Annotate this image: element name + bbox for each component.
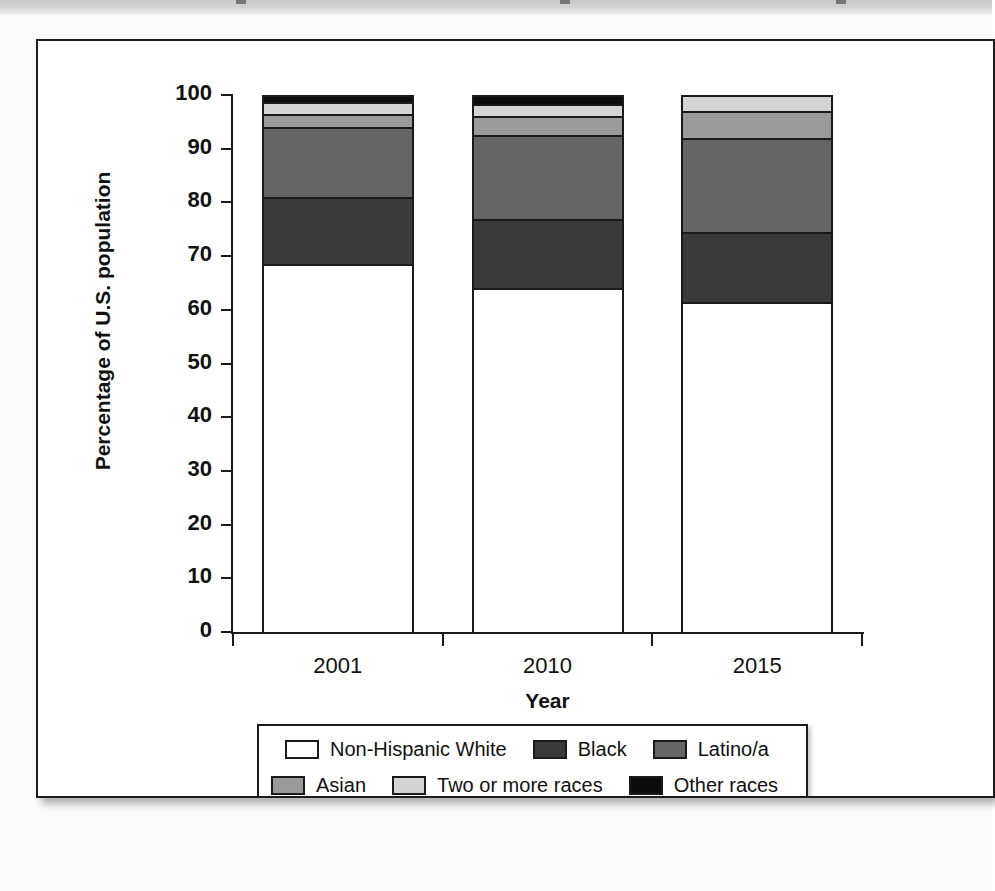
y-axis-tick — [221, 309, 232, 311]
bar-segment-non-hispanic-white[interactable] — [474, 288, 622, 632]
bar-segment-latino-a[interactable] — [683, 138, 831, 232]
bar-segment-asian[interactable] — [264, 114, 412, 127]
y-axis-tick-label-text: 40 — [188, 402, 212, 428]
bar-segment-other-races[interactable] — [474, 95, 622, 104]
y-axis-tick — [221, 631, 232, 633]
y-axis-tick-label-text: 90 — [188, 134, 212, 160]
legend-swatch-icon — [629, 776, 663, 795]
bar-2010[interactable] — [472, 95, 624, 632]
y-axis-title: Percentage of U.S. population — [91, 151, 115, 491]
scan-top-band — [0, 0, 992, 15]
bar-segment-two-or-more-races[interactable] — [683, 95, 831, 111]
y-axis-tick — [221, 363, 232, 365]
legend-item-black[interactable]: Black — [533, 738, 653, 761]
legend-label: Black — [578, 738, 627, 761]
bar-segment-asian[interactable] — [683, 111, 831, 138]
scan-artifact-mark — [236, 0, 246, 4]
y-axis-tick — [221, 470, 232, 472]
bar-segment-latino-a[interactable] — [474, 135, 622, 218]
legend-item-non-hispanic-white[interactable]: Non-Hispanic White — [285, 738, 533, 761]
x-axis-tick — [232, 634, 234, 646]
y-axis-tick — [221, 94, 232, 96]
legend-label: Other races — [674, 774, 778, 797]
y-axis-tick-label-text: 100 — [175, 80, 212, 106]
legend-row: AsianTwo or more racesOther races — [259, 767, 818, 798]
legend-item-other-races[interactable]: Other races — [629, 774, 804, 797]
bar-segment-black[interactable] — [683, 232, 831, 302]
x-axis-title: Year — [231, 689, 864, 713]
legend-label: Non-Hispanic White — [330, 738, 507, 761]
bar-segment-other-races[interactable] — [264, 95, 412, 102]
bar-segment-two-or-more-races[interactable] — [474, 104, 622, 116]
y-axis-tick-label-text: 30 — [188, 456, 212, 482]
x-axis-tick — [651, 634, 653, 646]
y-axis-tick — [221, 577, 232, 579]
y-axis-tick-label-text: 60 — [188, 295, 212, 321]
legend-item-asian[interactable]: Asian — [271, 774, 392, 797]
legend-swatch-icon — [533, 740, 567, 759]
scan-artifact-mark — [836, 0, 846, 4]
y-axis-tick-label-text: 80 — [188, 187, 212, 213]
y-axis-tick — [221, 416, 232, 418]
y-axis-tick — [221, 148, 232, 150]
bar-segment-non-hispanic-white[interactable] — [264, 264, 412, 632]
legend-swatch-icon — [285, 740, 319, 759]
legend-swatch-icon — [392, 776, 426, 795]
legend-swatch-icon — [271, 776, 305, 795]
legend-item-latino-a[interactable]: Latino/a — [653, 738, 795, 761]
x-axis-tick — [442, 634, 444, 646]
y-axis-tick-label-text: 70 — [188, 241, 212, 267]
bar-segment-black[interactable] — [264, 197, 412, 264]
y-axis-tick-label-text: 10 — [188, 563, 212, 589]
x-axis-tick-label-2001: 2001 — [258, 653, 418, 679]
bar-segment-non-hispanic-white[interactable] — [683, 302, 831, 632]
legend-label: Two or more races — [437, 774, 603, 797]
plot-area — [233, 95, 862, 632]
y-axis-tick — [221, 255, 232, 257]
legend-row: Non-Hispanic WhiteBlackLatino/a — [259, 731, 832, 767]
bar-2015[interactable] — [681, 95, 833, 632]
x-axis-tick — [861, 634, 863, 646]
legend-swatch-icon — [653, 740, 687, 759]
bar-segment-latino-a[interactable] — [264, 127, 412, 197]
bar-segment-asian[interactable] — [474, 116, 622, 135]
x-axis-tick-label-2015: 2015 — [677, 653, 837, 679]
bar-segment-black[interactable] — [474, 219, 622, 289]
scan-artifact-mark — [560, 0, 570, 4]
figure-frame: 1009080706050403020100 Percentage of U.S… — [36, 39, 995, 798]
x-axis-line — [231, 632, 864, 634]
chart-legend: Non-Hispanic WhiteBlackLatino/a AsianTwo… — [257, 724, 808, 798]
y-axis-tick-label-text: 0 — [200, 617, 212, 643]
legend-item-two-or-more-races[interactable]: Two or more races — [392, 774, 629, 797]
y-axis-tick — [221, 201, 232, 203]
x-axis-tick-label-2010: 2010 — [468, 653, 628, 679]
y-axis-tick-label-text: 50 — [188, 349, 212, 375]
y-axis-tick-label-text: 20 — [188, 510, 212, 536]
bar-2001[interactable] — [262, 95, 414, 632]
legend-label: Latino/a — [698, 738, 769, 761]
y-axis-tick — [221, 524, 232, 526]
bar-segment-two-or-more-races[interactable] — [264, 102, 412, 114]
legend-label: Asian — [316, 774, 366, 797]
